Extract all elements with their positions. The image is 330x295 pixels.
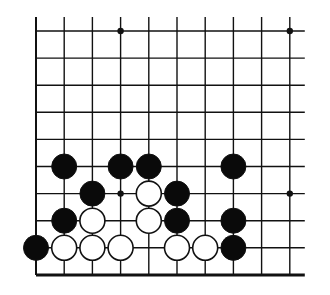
black-stone (136, 154, 161, 179)
go-board (0, 0, 330, 295)
hoshi-point (117, 28, 123, 34)
white-stone (80, 235, 105, 260)
hoshi-point (287, 190, 293, 196)
black-stone (165, 208, 190, 233)
stones-layer (24, 154, 246, 260)
white-stone (52, 235, 77, 260)
white-stone (136, 208, 161, 233)
hoshi-point (117, 190, 123, 196)
board-grid (36, 17, 305, 275)
black-stone (221, 154, 246, 179)
black-stone (221, 235, 246, 260)
black-stone (52, 208, 77, 233)
black-stone (165, 181, 190, 206)
hoshi-point (287, 28, 293, 34)
white-stone (108, 235, 133, 260)
white-stone (165, 235, 190, 260)
white-stone (80, 208, 105, 233)
black-stone (80, 181, 105, 206)
white-stone (193, 235, 218, 260)
black-stone (52, 154, 77, 179)
white-stone (136, 181, 161, 206)
black-stone (221, 208, 246, 233)
black-stone (108, 154, 133, 179)
black-stone (24, 235, 49, 260)
